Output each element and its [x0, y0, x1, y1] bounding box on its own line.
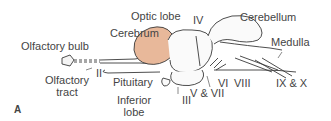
label-inferior-lobe-2: lobe — [112, 106, 156, 118]
label-optic-lobe: Optic lobe — [131, 10, 181, 22]
label-medulla: Medulla — [271, 36, 310, 48]
label-cerebrum: Cerebrum — [110, 27, 159, 39]
olfactory-bulb-shape — [62, 55, 74, 66]
optic-lobe-shape — [168, 30, 212, 73]
panel-label: A — [14, 104, 21, 116]
label-olfactory-bulb: Olfactory bulb — [21, 40, 89, 52]
label-ii: II — [96, 67, 102, 79]
pituitary-shape — [162, 78, 170, 86]
label-olfactory-tract-2: tract — [43, 86, 91, 98]
label-olfactory-tract-1: Olfactory — [43, 74, 91, 86]
label-pituitary: Pituitary — [113, 76, 153, 88]
label-viii: VIII — [234, 77, 251, 89]
label-inferior-lobe-1: Inferior — [112, 94, 156, 106]
label-vi: VI — [218, 77, 228, 89]
label-iv: IV — [193, 14, 203, 26]
inferior-lobe-shape — [171, 70, 204, 86]
label-ix-x: IX & X — [276, 77, 307, 89]
label-cerebellum: Cerebellum — [240, 11, 296, 23]
